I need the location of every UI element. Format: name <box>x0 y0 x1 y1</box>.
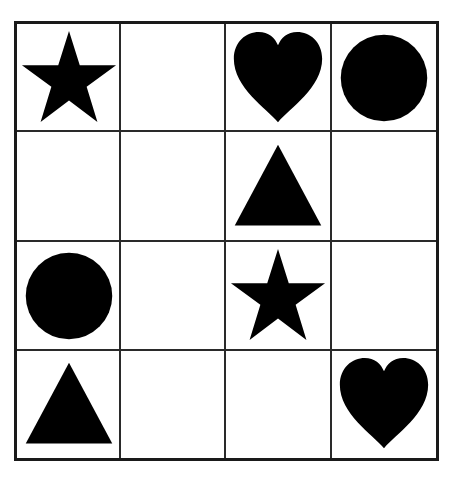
grid-cell-r1-c4[interactable] <box>331 24 436 131</box>
grid-cell-r1-c2[interactable] <box>120 24 225 131</box>
triangle-icon <box>22 357 116 451</box>
grid-cell-r3-c1[interactable] <box>17 241 120 350</box>
star-icon <box>20 29 118 127</box>
grid-cell-r2-c3[interactable] <box>225 131 331 241</box>
grid-cell-r3-c4[interactable] <box>331 241 436 350</box>
puzzle-grid <box>14 21 439 461</box>
circle-icon <box>22 249 116 343</box>
star-icon <box>229 247 327 345</box>
grid-cell-r3-c2[interactable] <box>120 241 225 350</box>
grid-cell-r4-c2[interactable] <box>120 350 225 458</box>
grid-cell-r1-c1[interactable] <box>17 24 120 131</box>
grid-cell-r4-c4[interactable] <box>331 350 436 458</box>
grid-cell-r3-c3[interactable] <box>225 241 331 350</box>
grid-cell-r4-c3[interactable] <box>225 350 331 458</box>
grid-cell-r2-c2[interactable] <box>120 131 225 241</box>
heart-icon <box>230 30 326 126</box>
circle-icon <box>337 31 431 125</box>
heart-icon <box>336 356 432 452</box>
grid-cell-r1-c3[interactable] <box>225 24 331 131</box>
grid-cell-r4-c1[interactable] <box>17 350 120 458</box>
grid-cell-r2-c4[interactable] <box>331 131 436 241</box>
triangle-icon <box>231 139 325 233</box>
grid-cell-r2-c1[interactable] <box>17 131 120 241</box>
